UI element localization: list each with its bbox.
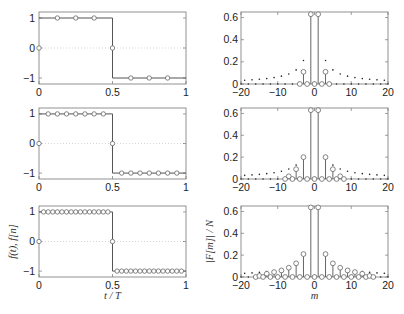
dft-marker: [338, 265, 343, 270]
sample-marker: [51, 210, 55, 214]
coefficient-dot: [281, 75, 283, 77]
dft-marker: [297, 275, 302, 280]
dft-marker: [342, 177, 347, 182]
coefficient-dot: [365, 178, 367, 180]
coefficient-dot: [259, 174, 261, 176]
dft-marker: [305, 275, 310, 280]
x-tick-label: 0: [36, 181, 42, 193]
dft-marker: [334, 275, 339, 280]
coefficient-dot: [358, 83, 360, 85]
dft-marker: [294, 261, 299, 266]
sample-marker: [115, 269, 119, 273]
coefficient-dot: [255, 83, 257, 85]
sample-marker: [78, 210, 82, 214]
x-tick-label: 10: [345, 279, 357, 291]
sample-marker: [46, 112, 50, 116]
coefficient-dot: [251, 79, 253, 81]
x-tick-label: 0: [312, 86, 318, 98]
coefficient-dot: [288, 73, 290, 75]
x-tick-label: −20: [232, 86, 250, 98]
y-tick-label: 0.2: [223, 151, 238, 163]
sample-marker: [165, 171, 169, 175]
dft-marker: [305, 177, 310, 182]
sample-marker: [142, 269, 146, 273]
x-tick-label: −10: [269, 86, 287, 98]
sample-marker: [147, 76, 151, 80]
sample-marker: [92, 210, 96, 214]
coefficient-dot: [244, 79, 246, 81]
y-tick-label: 0.2: [223, 55, 238, 67]
coefficient-dot: [262, 178, 264, 180]
coefficient-dot: [248, 83, 250, 85]
sample-marker: [170, 269, 174, 273]
coefficient-dot: [384, 273, 386, 275]
sample-marker: [119, 171, 123, 175]
coefficient-dot: [365, 83, 367, 85]
x-tick-label: 20: [382, 181, 394, 193]
coefficient-dot: [384, 175, 386, 177]
dft-marker: [319, 82, 324, 87]
coefficient-dot: [343, 83, 345, 85]
coefficient-dot: [361, 173, 363, 175]
y-tick-label: 0.4: [223, 33, 238, 45]
coefficient-dot: [369, 78, 371, 80]
coefficient-dot: [277, 83, 279, 85]
sample-marker: [175, 171, 179, 175]
dft-marker: [319, 275, 324, 280]
y-tick-label: 0.4: [223, 227, 238, 239]
dft-marker: [286, 265, 291, 270]
dft-marker: [294, 167, 299, 172]
dft-marker: [316, 12, 321, 17]
coefficient-dot: [347, 170, 349, 172]
sample-marker: [133, 269, 137, 273]
y-tick-label: 1: [29, 12, 35, 24]
x-tick-label: 10: [345, 86, 357, 98]
coefficient-dot: [380, 83, 382, 85]
x-tick-label: 0: [36, 86, 42, 98]
x-tick-label: −10: [269, 279, 287, 291]
sample-marker: [55, 210, 59, 214]
coefficient-dot: [240, 276, 242, 278]
sample-marker: [87, 210, 91, 214]
dft-marker: [353, 270, 358, 275]
y-tick-label: 0.6: [223, 107, 238, 119]
dft-marker: [297, 177, 302, 182]
coefficient-dot: [339, 168, 341, 170]
axes-box: [241, 12, 388, 84]
dft-marker: [327, 275, 332, 280]
dft-marker: [290, 275, 295, 280]
sample-marker: [101, 210, 105, 214]
sample-marker: [37, 239, 41, 243]
sample-marker: [165, 269, 169, 273]
y-axis-label-time: f(t), f[n]: [7, 224, 19, 258]
sample-marker: [37, 141, 41, 145]
dft-marker: [301, 155, 306, 160]
sample-marker: [83, 210, 87, 214]
sample-marker: [83, 112, 87, 116]
coefficient-dot: [266, 173, 268, 175]
axes-box: [241, 206, 388, 277]
sample-marker: [110, 141, 114, 145]
sample-marker: [64, 210, 68, 214]
x-tick-label: −20: [232, 279, 250, 291]
coefficient-dot: [376, 79, 378, 81]
sample-marker: [110, 46, 114, 50]
coefficient-dot: [259, 272, 261, 274]
dft-marker: [319, 177, 324, 182]
y-tick-label: 0.6: [223, 205, 238, 217]
sample-marker: [138, 269, 142, 273]
y-tick-label: −1: [23, 265, 35, 277]
dft-marker: [301, 252, 306, 257]
x-axis-label-time: t / T: [104, 290, 122, 301]
dft-marker: [323, 69, 328, 74]
sample-marker: [156, 269, 160, 273]
coefficient-dot: [332, 164, 334, 166]
dft-marker: [316, 108, 321, 113]
y-axis-label-spectrum: |F[m]| / N: [204, 219, 215, 263]
dft-marker: [308, 12, 313, 17]
spectrum-plot-3: 00.20.40.6−20−1001020: [223, 205, 394, 291]
dft-marker: [272, 270, 277, 275]
coefficient-dot: [266, 78, 268, 80]
dft-marker: [327, 177, 332, 182]
dft-marker: [330, 167, 335, 172]
